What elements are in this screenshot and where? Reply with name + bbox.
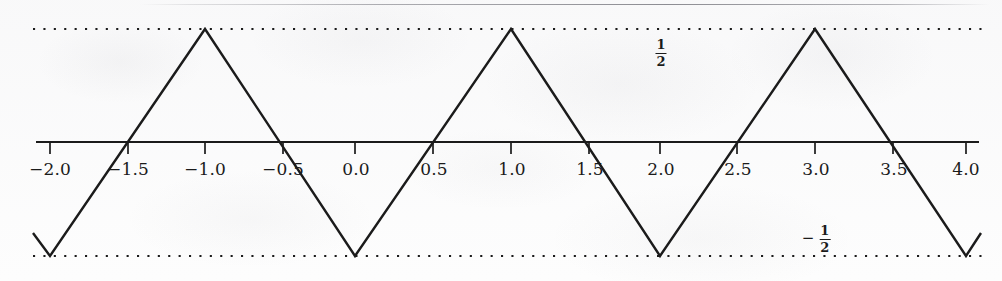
fraction-numerator: 1 [655, 38, 666, 53]
x-tick-label-2.5: 2.5 [724, 161, 752, 178]
x-tick-label-1.0: 1.0 [498, 161, 526, 178]
fraction-numerator: 1 [819, 224, 830, 239]
x-tick-label--2.0: −2.0 [29, 161, 71, 178]
fraction-denominator: 2 [819, 240, 830, 255]
plot-area [0, 0, 1002, 281]
x-tick-label-4.0: 4.0 [952, 161, 980, 178]
x-tick-label-0.0: 0.0 [342, 161, 370, 178]
x-tick-label-0.5: 0.5 [420, 161, 448, 178]
upper-half-value-label: 1 2 [655, 38, 666, 69]
lower-half-value-label: − 1 2 [802, 224, 831, 255]
x-tick-label-2.0: 2.0 [647, 161, 675, 178]
x-axis-ticks [50, 142, 966, 154]
minus-sign: − [802, 231, 815, 246]
fraction-one-half: 1 2 [819, 224, 830, 255]
x-tick-label--1.0: −1.0 [184, 161, 226, 178]
x-tick-label--0.5: −0.5 [262, 161, 304, 178]
x-tick-label-3.5: 3.5 [880, 161, 908, 178]
x-tick-label-3.0: 3.0 [802, 161, 830, 178]
fraction-one-half: 1 2 [655, 38, 666, 69]
x-tick-label-1.5: 1.5 [576, 161, 604, 178]
figure-canvas: −2.0 −1.5 −1.0 −0.5 0.0 0.5 1.0 1.5 2.0 … [0, 0, 1002, 281]
x-tick-label--1.5: −1.5 [107, 161, 149, 178]
fraction-denominator: 2 [655, 54, 666, 69]
